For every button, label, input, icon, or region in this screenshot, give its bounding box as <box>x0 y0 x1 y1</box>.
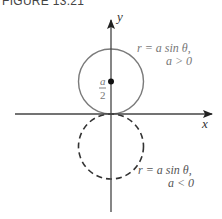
lower-equation: r = a sin θ, <box>138 163 192 177</box>
upper-condition: a > 0 <box>166 54 192 68</box>
y-axis-label: y <box>115 9 123 24</box>
fraction-denominator: 2 <box>100 89 106 101</box>
upper-equation: r = a sin θ, <box>137 41 191 55</box>
center-dot <box>108 79 114 85</box>
lower-condition: a < 0 <box>168 176 194 190</box>
x-axis-label: x <box>201 116 208 131</box>
polar-circles-diagram: y x a 2 r = a sin θ, a > 0 r = a sin θ, … <box>0 0 222 219</box>
fraction-numerator: a <box>100 75 106 87</box>
